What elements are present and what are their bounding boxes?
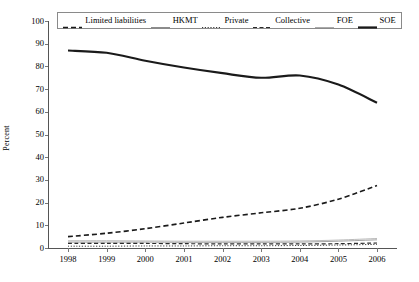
legend-item-limited-liabilities[interactable]: Limited liabilities — [63, 16, 146, 25]
legend-item-foe[interactable]: FOE — [315, 16, 353, 25]
y-tick-label: 80 — [22, 62, 44, 71]
legend-line-sample-icon — [202, 17, 221, 24]
legend-item-private[interactable]: Private — [202, 16, 248, 25]
legend-item-label: SOE — [380, 16, 396, 25]
x-tick-mark — [68, 248, 69, 252]
x-tick-label: 1999 — [89, 255, 125, 264]
legend-item-soe[interactable]: SOE — [358, 16, 396, 25]
legend-item-label: HKMT — [173, 16, 198, 25]
y-tick-label: 70 — [22, 85, 44, 94]
y-tick-label: 40 — [22, 153, 44, 162]
legend-item-hkmt[interactable]: HKMT — [151, 16, 198, 25]
x-tick-mark — [377, 248, 378, 252]
series-line-collective — [68, 243, 377, 244]
legend-line-sample-icon — [315, 17, 334, 24]
x-tick-label: 2001 — [166, 255, 202, 264]
x-tick-mark — [145, 248, 146, 252]
y-tick-label: 0 — [22, 244, 44, 253]
legend-line-sample-icon — [358, 17, 377, 24]
y-axis-tick-labels: 0102030405060708090100 — [18, 0, 44, 282]
x-tick-mark — [223, 248, 224, 252]
series-line-soe — [68, 51, 377, 103]
legend-line-sample-icon — [151, 17, 170, 24]
y-tick-mark — [45, 248, 48, 249]
y-tick-label: 30 — [22, 175, 44, 184]
x-tick-mark — [261, 248, 262, 252]
legend-line-sample-icon — [253, 17, 272, 24]
x-tick-label: 2002 — [205, 255, 241, 264]
plot-area — [48, 21, 397, 248]
series-lines — [48, 21, 397, 248]
y-tick-label: 60 — [22, 107, 44, 116]
legend-item-label: Limited liabilities — [85, 16, 146, 25]
x-tick-label: 1998 — [50, 255, 86, 264]
y-axis-title: Percent — [2, 50, 11, 110]
legend-line-sample-icon — [63, 17, 82, 24]
legend-item-label: Private — [224, 16, 248, 25]
line-chart: Percent 0102030405060708090100 199819992… — [0, 0, 419, 282]
y-tick-label: 90 — [22, 39, 44, 48]
chart-legend: Limited liabilitiesHKMTPrivateCollective… — [57, 12, 402, 29]
legend-item-collective[interactable]: Collective — [253, 16, 310, 25]
x-tick-mark — [184, 248, 185, 252]
y-tick-label: 10 — [22, 221, 44, 230]
legend-item-label: FOE — [337, 16, 353, 25]
y-axis-title-label: Percent — [2, 108, 11, 168]
y-tick-label: 50 — [22, 130, 44, 139]
x-tick-mark — [300, 248, 301, 252]
x-tick-label: 2003 — [243, 255, 279, 264]
y-tick-label: 100 — [22, 17, 44, 26]
legend-item-label: Collective — [275, 16, 310, 25]
x-tick-mark — [107, 248, 108, 252]
x-tick-label: 2005 — [320, 255, 356, 264]
x-tick-mark — [338, 248, 339, 252]
series-line-private — [68, 244, 377, 246]
x-tick-label: 2006 — [359, 255, 395, 264]
x-tick-label: 2004 — [282, 255, 318, 264]
series-line-limited-liabilities — [68, 186, 377, 237]
y-tick-label: 20 — [22, 198, 44, 207]
x-tick-label: 2000 — [127, 255, 163, 264]
series-line-foe — [68, 238, 377, 241]
